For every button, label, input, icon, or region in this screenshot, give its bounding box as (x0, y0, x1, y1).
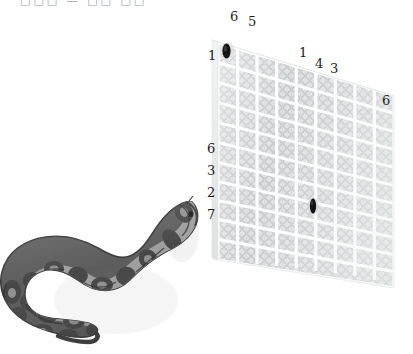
marker-top-left (220, 42, 235, 59)
annotation-top-second: 5 (248, 15, 256, 28)
annotation-top-right-second: 4 (315, 57, 323, 70)
python-snake (0, 196, 208, 354)
annotation-side-2: 2 (207, 186, 215, 199)
mesh-grid-panel (206, 22, 406, 288)
marker-center (308, 197, 318, 214)
annotation-top-left: 6 (230, 10, 238, 23)
annotation-top-right-third: 3 (330, 62, 338, 75)
annotation-side-3: 7 (207, 208, 215, 221)
snake-tongue (189, 196, 193, 201)
annotation-side-0: 6 (207, 142, 215, 155)
mesh-grid-svg (206, 22, 406, 288)
annotation-top-right-first: 1 (299, 46, 307, 59)
snake-svg (0, 196, 208, 354)
annotation-side-1: 3 (207, 164, 215, 177)
clipped-header-text: □□□ — □□ □□ (0, 0, 180, 9)
snake-eye (189, 211, 194, 217)
annotation-far-right: 6 (382, 94, 390, 107)
scene-canvas: □□□ — □□ □□ (0, 0, 413, 354)
panel-face (206, 22, 406, 288)
annotation-left-edge: 1 (208, 49, 216, 62)
header-text-glyphs: □□□ — □□ □□ (20, 0, 147, 7)
